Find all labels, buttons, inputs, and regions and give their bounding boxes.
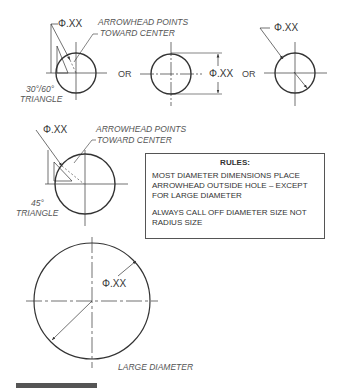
rule-1: MOST DIAMETER DIMENSIONS PLACE ARROWHEAD… <box>152 171 318 201</box>
middle-dimension: Φ.XX <box>43 124 67 135</box>
or-label-1: OR <box>118 69 132 79</box>
example1-note-line2: TOWARD CENTER <box>100 28 175 38</box>
large-caption: LARGE DIAMETER <box>118 362 193 372</box>
rule-2: ALWAYS CALL OFF DIAMETER SIZE NOT RADIUS… <box>152 208 318 228</box>
large-circle <box>26 237 158 368</box>
example1-circle <box>46 24 107 100</box>
middle-note-line1: ARROWHEAD POINTS <box>96 124 186 134</box>
middle-note-line2: TOWARD CENTER <box>97 135 172 145</box>
middle-triangle-line2: TRIANGLE <box>16 208 59 218</box>
example1-triangle-line2: TRIANGLE <box>20 94 63 104</box>
footer-bar <box>16 383 97 388</box>
middle-triangle-line1: 45° <box>31 198 44 208</box>
example1-triangle-line1: 30°/60° <box>26 84 54 94</box>
example3-circle <box>260 28 327 106</box>
example1-dimension: Φ.XX <box>58 18 82 29</box>
example2-dimension: Φ.XX <box>209 68 233 79</box>
or-label-2: OR <box>242 69 256 79</box>
large-dimension: Φ.XX <box>102 278 126 289</box>
rules-title: RULES: <box>152 158 318 168</box>
example3-dimension: Φ.XX <box>274 22 298 33</box>
rules-box: RULES: MOST DIAMETER DIMENSIONS PLACE AR… <box>145 153 325 239</box>
example1-note-line1: ARROWHEAD POINTS <box>98 17 188 27</box>
